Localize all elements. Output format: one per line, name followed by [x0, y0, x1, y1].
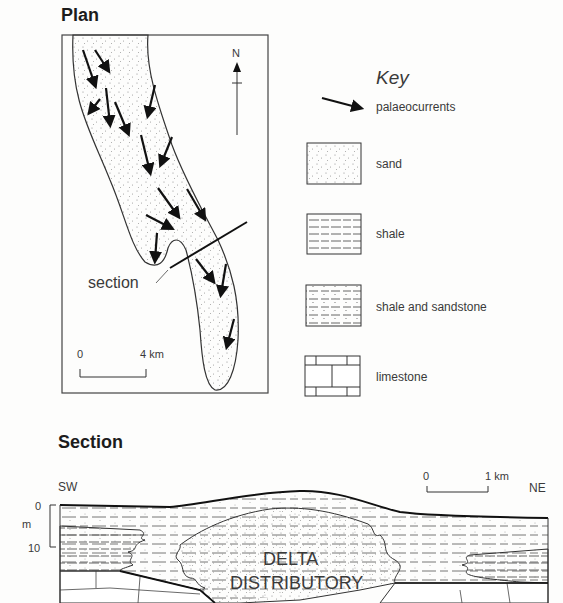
hscale-end: 1 km [485, 470, 509, 482]
section-label: section [88, 274, 139, 291]
shale-sandstone-swatch [306, 285, 361, 326]
key-label: sand [376, 157, 402, 171]
shale-swatch [307, 214, 361, 254]
ne-label: NE [529, 481, 546, 495]
vscale-bottom: 10 [28, 542, 40, 554]
arrow-icon [322, 98, 360, 108]
key-legend: Key palaeocurrents sand shale shale and … [305, 67, 487, 396]
sw-label: SW [58, 480, 78, 494]
section-leader [156, 270, 168, 283]
horizontal-scale: 0 1 km [423, 470, 509, 492]
key-item-palaeocurrents: palaeocurrents [322, 98, 455, 114]
sand-swatch [307, 143, 361, 184]
key-title: Key [376, 67, 410, 88]
key-label: palaeocurrents [376, 100, 455, 114]
key-label: limestone [376, 370, 428, 384]
key-item-sand: sand [307, 143, 402, 184]
figure: section N 0 4 km FS Key palaeocurrents s… [0, 0, 563, 603]
vertical-scale: 0 m 10 [22, 500, 56, 554]
key-item-shale-sandstone: shale and sandstone [306, 285, 487, 326]
north-label: N [232, 47, 240, 59]
distributory-label: DISTRIBUTORY [230, 573, 363, 593]
key-label: shale and sandstone [376, 300, 487, 314]
limestone-base-right [380, 583, 548, 603]
plan-map: section N 0 4 km FS [62, 35, 268, 393]
cross-section: SW NE 0 m 10 0 1 km [22, 470, 548, 603]
shale-wedge-left [60, 526, 145, 571]
north-arrow-icon: N [232, 47, 242, 135]
plan-scale-bar: 0 4 km FS [77, 348, 164, 377]
plan-scale-start: 0 [77, 348, 83, 360]
channel-sand-body [73, 35, 239, 390]
vscale-unit: m [22, 518, 31, 530]
plan-scale-end: 4 km [140, 348, 164, 360]
vscale-top: 0 [35, 500, 41, 512]
limestone-swatch [305, 356, 360, 396]
key-item-shale: shale [307, 214, 405, 254]
delta-label: DELTA [263, 549, 318, 569]
key-label: shale [376, 227, 405, 241]
hscale-start: 0 [423, 470, 429, 482]
key-item-limestone: limestone [305, 356, 428, 396]
